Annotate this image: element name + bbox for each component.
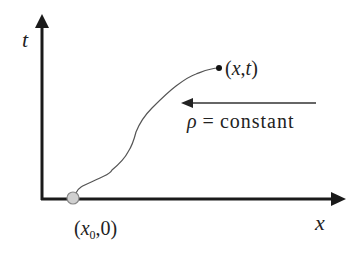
left-arrow-icon (181, 98, 193, 108)
start-point-label: (x0,0) (74, 217, 117, 242)
t-axis-arrow-icon (35, 14, 49, 28)
start-point (67, 192, 79, 204)
characteristic-curve (76, 68, 219, 193)
t-axis (35, 14, 49, 200)
x-axis-label: x (314, 210, 325, 235)
end-point (216, 65, 222, 71)
t-axis-label: t (22, 27, 29, 52)
density-annotation: ρ=constant (186, 110, 295, 133)
x-axis-arrow-icon (331, 192, 346, 206)
characteristic-diagram: t x (x,t) (x0,0) ρ=constant (0, 0, 361, 258)
end-point-label: (x,t) (225, 57, 258, 80)
x-axis (41, 192, 346, 206)
